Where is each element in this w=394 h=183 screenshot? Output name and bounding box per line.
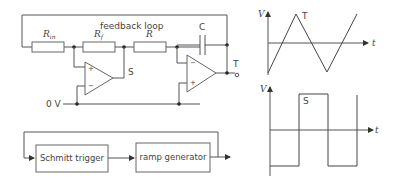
capacitor-c-label: C (199, 22, 205, 32)
output-terminal-t (235, 73, 239, 77)
svg-text:t: t (372, 38, 376, 48)
r-in-label: Rin (42, 29, 56, 40)
svg-text:V: V (258, 9, 266, 19)
svg-text:T: T (301, 11, 308, 21)
triangle-wave-graph: V t T (258, 9, 376, 75)
feedback-loop-label: feedback loop (100, 21, 164, 31)
svg-text:+: + (190, 79, 196, 87)
resistor-r-in (32, 42, 64, 52)
svg-text:V: V (260, 84, 268, 94)
schmitt-ramp-oscillator-diagram: feedback loop Rin Rf R C + − S − (0, 0, 394, 183)
resistor-r (134, 42, 166, 52)
svg-text:Schmitt trigger: Schmitt trigger (40, 153, 105, 163)
svg-text:S: S (303, 96, 309, 106)
svg-text:ramp generator: ramp generator (139, 152, 207, 162)
svg-text:+: + (88, 65, 94, 73)
s-output-label: S (128, 67, 134, 77)
svg-text:−: − (88, 82, 94, 90)
resistor-r-f (83, 42, 115, 52)
r-label: R (145, 29, 153, 39)
t-output-label: T (232, 59, 239, 69)
ground-label: 0 V (46, 99, 62, 109)
svg-text:−: − (190, 59, 196, 67)
block-diagram: Schmitt trigger ramp generator (24, 132, 230, 172)
svg-text:t: t (375, 125, 379, 135)
circuit-schematic: feedback loop Rin Rf R C + − S − (22, 15, 239, 109)
square-wave-graph: V t S (260, 84, 379, 176)
